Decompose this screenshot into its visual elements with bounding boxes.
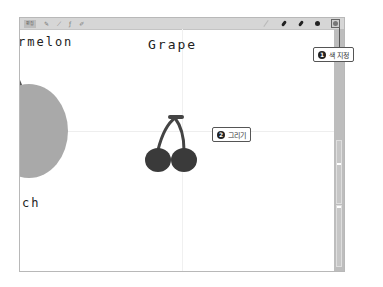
callout-2-badge: 2 xyxy=(217,131,225,139)
opacity-slider[interactable] xyxy=(336,205,342,267)
brush-tool-icon[interactable] xyxy=(315,21,320,26)
callout-1-set-color: 1 색 지정 xyxy=(313,47,354,62)
callout-1-badge: 1 xyxy=(318,51,326,59)
brush-size-thumb[interactable] xyxy=(337,163,341,165)
grape-label: Grape xyxy=(148,37,197,52)
watermelon-label: rmelon xyxy=(19,35,73,49)
color-dot-icon xyxy=(333,21,338,26)
marker-tool-icon[interactable] xyxy=(298,20,304,27)
pencil-tool-icon[interactable] xyxy=(263,20,268,27)
opacity-thumb[interactable] xyxy=(337,206,341,208)
toolbar-left-group: 편집 ✎ ⟋ ƒ ✐ xyxy=(24,19,84,28)
drawing-app-window: 편집 ✎ ⟋ ƒ ✐ rmelon Grape ch xyxy=(19,17,345,272)
select-tool-icon[interactable]: ✎ xyxy=(44,19,49,28)
lasso-tool-icon[interactable]: ⟋ xyxy=(57,19,61,28)
eraser-tool-icon[interactable]: ✐ xyxy=(79,19,84,28)
cherry-drawing xyxy=(142,112,202,174)
side-tool-panel xyxy=(334,29,344,271)
callout-1-text: 색 지정 xyxy=(329,50,349,60)
callout-2-draw: 2 그리기 xyxy=(212,127,251,142)
brush-size-slider[interactable] xyxy=(336,140,342,204)
toolbar-right-group xyxy=(262,19,340,28)
edit-mode-button[interactable]: 편집 xyxy=(24,20,36,28)
pen-tool-icon[interactable] xyxy=(281,20,287,27)
text-tool-icon[interactable]: ƒ xyxy=(69,19,71,28)
color-picker-button[interactable] xyxy=(331,19,340,28)
peach-drawing xyxy=(19,84,68,178)
callout-1-leader-line xyxy=(339,28,340,48)
peach-label: ch xyxy=(22,196,40,210)
callout-2-text: 그리기 xyxy=(228,130,246,140)
